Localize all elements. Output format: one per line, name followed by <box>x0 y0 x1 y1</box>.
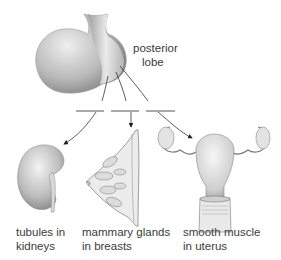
uterus-label: smooth muscle in uterus <box>183 226 260 253</box>
label-line: in uterus <box>183 240 260 254</box>
kidneys-label: tubules in kidneys <box>16 226 65 253</box>
kidney-illustration <box>18 145 64 212</box>
mammary-gland-illustration <box>86 130 139 226</box>
label-line: mammary glands <box>82 226 170 240</box>
label-line: smooth muscle <box>183 226 260 240</box>
uterus-illustration <box>158 127 270 232</box>
diagram-canvas <box>0 0 281 260</box>
label-line: tubules in <box>16 226 65 240</box>
label-line: lobe <box>133 56 178 70</box>
posterior-lobe-label: posterior lobe <box>133 42 178 69</box>
breasts-label: mammary glands in breasts <box>82 226 170 253</box>
label-line: posterior <box>133 42 178 56</box>
label-line: kidneys <box>16 240 65 254</box>
label-line: in breasts <box>82 240 170 254</box>
pituitary-gland-illustration <box>36 14 127 93</box>
